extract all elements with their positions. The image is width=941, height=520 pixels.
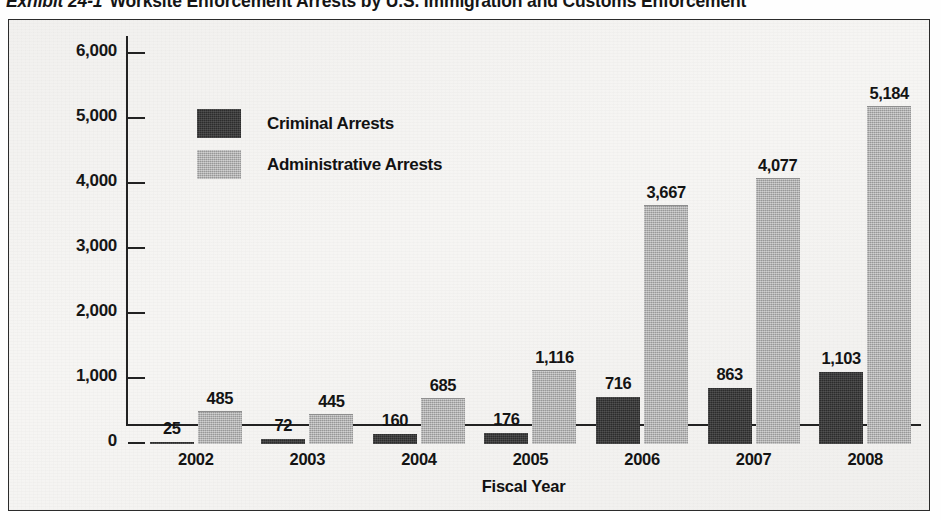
- y-axis-tick-label: 2,000: [76, 301, 117, 321]
- bar-group: 8634,0772007: [698, 54, 810, 444]
- bar-group: 1606852004: [363, 54, 475, 444]
- bar-value-label: 863: [716, 365, 742, 384]
- bar-value-label: 685: [430, 376, 456, 395]
- bar-group: 7163,6672006: [586, 54, 698, 444]
- bar-criminal-arrests-2006: 716: [596, 397, 640, 444]
- bar-group: 1761,1162005: [475, 54, 587, 444]
- y-axis-tick-label: 3,000: [76, 236, 117, 256]
- x-axis-title: Fiscal Year: [126, 477, 921, 496]
- bar-criminal-arrests-2005: 176: [484, 433, 528, 444]
- x-axis-category-label: 2004: [401, 450, 437, 469]
- bar-group: 724452003: [252, 54, 364, 444]
- bar-group: 254852002: [140, 54, 252, 444]
- bar-criminal-arrests-2004: 160: [373, 434, 417, 444]
- y-axis-line: [126, 36, 128, 426]
- bar-criminal-arrests-2003: 72: [261, 439, 305, 444]
- x-axis-category-label: 2008: [847, 450, 883, 469]
- y-axis-tick-label: 5,000: [76, 106, 117, 126]
- y-axis-tick-label: 6,000: [76, 41, 117, 61]
- bar-value-label: 3,667: [646, 183, 685, 202]
- bar-criminal-arrests-2002: 25: [150, 442, 194, 444]
- x-axis-category-label: 2007: [736, 450, 772, 469]
- bar-value-label: 5,184: [870, 84, 909, 103]
- x-axis-category-label: 2006: [624, 450, 660, 469]
- x-axis-category-label: 2002: [178, 450, 214, 469]
- bar-value-label: 25: [163, 419, 181, 438]
- x-axis-category-label: 2003: [290, 450, 326, 469]
- bar-administrative-arrests-2006: 3,667: [644, 205, 688, 444]
- chart-frame: Worksite Enforcement Arrests Criminal Ar…: [8, 19, 930, 511]
- bar-administrative-arrests-2005: 1,116: [532, 370, 576, 444]
- exhibit-title-text: Worksite Enforcement Arrests by U.S. Imm…: [109, 0, 746, 11]
- bar-value-label: 485: [207, 389, 233, 408]
- bar-value-label: 445: [318, 392, 344, 411]
- x-axis-category-label: 2005: [513, 450, 549, 469]
- bar-administrative-arrests-2003: 445: [309, 414, 353, 444]
- bar-value-label: 1,103: [822, 349, 861, 368]
- figure-page: -Exhibit 24-1Worksite Enforcement Arrest…: [0, 0, 941, 520]
- bar-value-label: 176: [493, 410, 519, 429]
- bar-value-label: 1,116: [535, 348, 573, 367]
- y-axis-tick-label: 1,000: [76, 366, 117, 386]
- y-axis-tick-label: 0: [108, 431, 117, 451]
- plot-area: 6,0005,0004,0003,0002,0001,0000 25485200…: [126, 36, 921, 444]
- bar-value-label: 160: [382, 411, 408, 430]
- bar-group: 1,1035,1842008: [809, 54, 921, 444]
- bar-criminal-arrests-2008: 1,103: [819, 372, 863, 444]
- bar-value-label: 72: [275, 416, 293, 435]
- bar-administrative-arrests-2007: 4,077: [756, 178, 800, 444]
- bar-value-label: 4,077: [758, 156, 797, 175]
- bar-administrative-arrests-2008: 5,184: [867, 106, 911, 444]
- bar-administrative-arrests-2004: 685: [421, 398, 465, 444]
- y-axis-tick-label: 4,000: [76, 171, 117, 191]
- bar-value-label: 716: [605, 374, 631, 393]
- exhibit-title: -Exhibit 24-1Worksite Enforcement Arrest…: [6, 0, 936, 15]
- bar-criminal-arrests-2007: 863: [708, 388, 752, 444]
- bar-administrative-arrests-2002: 485: [198, 411, 242, 444]
- exhibit-number: Exhibit 24-1: [6, 0, 102, 11]
